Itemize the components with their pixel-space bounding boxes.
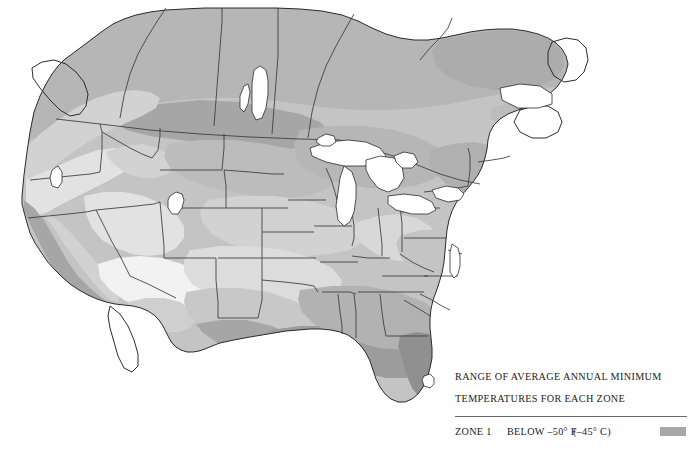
legend-title-line-1: RANGE OF AVERAGE ANNUAL MINIMUM [455, 366, 687, 388]
legend-divider [455, 416, 687, 417]
legend-row: ZONE 1 BELOW –50° F (–45° C) [455, 424, 687, 438]
legend-title-line-2: TEMPERATURES FOR EACH ZONE [455, 388, 687, 410]
chesapeake-bay [450, 244, 460, 278]
lake-okeechobee [422, 374, 434, 388]
coast-baja [108, 306, 138, 372]
legend-range-celsius: (–45° C) [573, 426, 660, 437]
legend-color-swatch [660, 427, 686, 436]
plant-hardiness-zone-map-page: RANGE OF AVERAGE ANNUAL MINIMUM TEMPERAT… [0, 0, 691, 450]
legend-zone-label: ZONE 1 [455, 426, 507, 437]
coast-nova-scotia [514, 106, 562, 138]
legend: RANGE OF AVERAGE ANNUAL MINIMUM TEMPERAT… [455, 366, 687, 438]
legend-range-fahrenheit: BELOW –50° F [507, 426, 573, 437]
map-land-and-zones [20, 0, 691, 402]
